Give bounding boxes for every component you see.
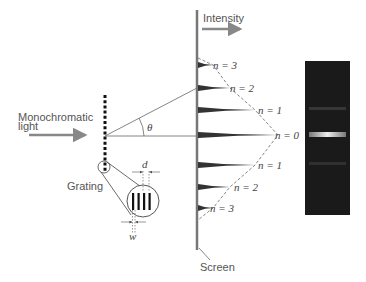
monochromatic-label-line2: light	[18, 120, 38, 132]
peak-n2-bottom	[198, 184, 230, 190]
order-labels: n = 3 n = 2 n = 1 n = 0 n = 1 n = 2 n = …	[210, 59, 299, 214]
peak-n3-top	[198, 62, 213, 68]
band-n0	[309, 132, 346, 137]
peak-n1-top	[198, 107, 255, 113]
order-label: n = 3	[210, 202, 234, 214]
screen-label: Screen	[200, 261, 235, 273]
grating-magnifier: d w	[98, 158, 160, 242]
monochromatic-light: Monochromatic light	[18, 111, 94, 135]
diffraction-grating-diagram: Intensity Monochromatic light θ d	[0, 0, 366, 282]
peak-n0	[198, 132, 278, 138]
order-label: n = 0	[275, 129, 299, 141]
order-label: n = 2	[230, 82, 254, 94]
order-label: n = 2	[234, 181, 258, 193]
peak-n2-top	[198, 85, 230, 91]
theta-label: θ	[147, 121, 153, 133]
angle-arc	[139, 118, 144, 136]
band-n1-bottom	[309, 162, 346, 165]
peak-n1-bottom	[198, 162, 255, 168]
diffraction-photo	[305, 61, 350, 215]
order-label: n = 3	[213, 59, 237, 71]
intensity-arrow: Intensity	[202, 12, 244, 29]
rays: θ	[105, 88, 197, 136]
grating-label: Grating	[67, 180, 103, 192]
band-n1-top	[309, 107, 346, 110]
order-label: n = 1	[258, 159, 282, 171]
slit-width-label: w	[129, 230, 137, 242]
slit-spacing-label: d	[142, 158, 148, 170]
order-label: n = 1	[258, 104, 282, 116]
intensity-label: Intensity	[203, 12, 244, 24]
